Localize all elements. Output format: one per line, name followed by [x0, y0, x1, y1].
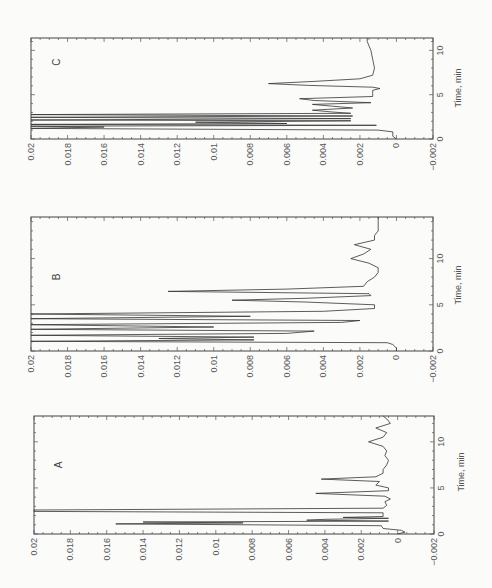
value-tick-label: 0.006: [284, 538, 294, 561]
value-tick-label: 0.002: [356, 538, 366, 561]
value-tick-label: 0.004: [320, 538, 330, 561]
value-tick-label: 0.018: [63, 143, 73, 166]
value-tick-label: 0.016: [102, 538, 112, 561]
value-tick-label: 0.014: [136, 143, 146, 166]
time-tick-label: 0: [435, 348, 445, 353]
value-tick-label: 0.02: [29, 538, 39, 556]
value-axis-labels: 0.020.0180.0160.0140.0120.010.0080.0060.…: [26, 143, 438, 171]
time-axis-title: Time, min: [453, 265, 463, 304]
value-tick-label: 0.01: [211, 538, 221, 556]
value-tick-label: 0.012: [174, 538, 184, 561]
panel-label: B: [51, 273, 62, 280]
value-tick-label: 0.006: [282, 355, 292, 378]
value-tick-label: 0.018: [63, 355, 73, 378]
value-tick-label: 0.002: [355, 355, 365, 378]
chromatogram-trace: [31, 217, 397, 351]
value-axis-labels: 0.020.0180.0160.0140.0120.010.0080.0060.…: [26, 355, 438, 383]
panel-label: C: [51, 58, 62, 65]
time-tick-label: 5: [436, 485, 446, 490]
value-tick-label: 0.01: [209, 143, 219, 161]
value-tick-label: 0.008: [245, 143, 255, 166]
plot-frame: [34, 416, 434, 534]
value-tick-label: 0.01: [209, 355, 219, 373]
time-axis-labels: 0510: [436, 437, 446, 537]
value-tick-label: 0.002: [355, 143, 365, 166]
time-axis-title: Time, min: [453, 68, 463, 107]
time-tick-label: 5: [435, 302, 445, 307]
value-tick-label: 0.004: [318, 355, 328, 378]
value-tick-label: 0.018: [65, 538, 75, 561]
value-tick-label: 0.006: [282, 143, 292, 166]
value-tick-label: 0.02: [26, 143, 36, 161]
time-axis-labels: 0510: [435, 254, 445, 354]
value-tick-label: 0.014: [138, 538, 148, 561]
axis-ticks: [34, 416, 434, 534]
value-tick-label: 0.008: [247, 538, 257, 561]
value-tick-label: 0: [393, 538, 403, 543]
value-tick-label: 0.016: [99, 143, 109, 166]
time-tick-label: 0: [435, 136, 445, 141]
value-tick-label: 0.016: [99, 355, 109, 378]
chromatogram-figure: C 0.020.0180.0160.0140.0120.010.0080.006…: [0, 0, 492, 588]
value-tick-label: −0.002: [428, 143, 438, 171]
panel-a: A 0.020.0180.0160.0140.0120.010.0080.006…: [29, 416, 466, 566]
time-axis-labels: 0510: [435, 45, 445, 141]
panel-label: A: [53, 461, 64, 468]
chromatogram-trace: [34, 416, 405, 534]
value-tick-label: −0.002: [429, 538, 439, 566]
time-axis-title: Time, min: [456, 452, 466, 491]
value-tick-label: 0.004: [318, 143, 328, 166]
time-tick-label: 0: [436, 531, 446, 536]
value-axis-labels: 0.020.0180.0160.0140.0120.010.0080.0060.…: [29, 538, 439, 566]
value-tick-label: −0.002: [428, 355, 438, 383]
time-tick-label: 10: [435, 45, 445, 55]
value-tick-label: 0: [391, 355, 401, 360]
panel-c: C 0.020.0180.0160.0140.0120.010.0080.006…: [26, 38, 463, 171]
chromatogram-trace: [31, 38, 397, 139]
time-tick-label: 10: [436, 437, 446, 447]
panel-b: B 0.020.0180.0160.0140.0120.010.0080.006…: [26, 217, 463, 383]
value-tick-label: 0.008: [245, 355, 255, 378]
value-tick-label: 0: [391, 143, 401, 148]
time-tick-label: 5: [435, 92, 445, 97]
value-tick-label: 0.012: [172, 143, 182, 166]
time-tick-label: 10: [435, 254, 445, 264]
value-tick-label: 0.02: [26, 355, 36, 373]
value-tick-label: 0.014: [136, 355, 146, 378]
value-tick-label: 0.012: [172, 355, 182, 378]
